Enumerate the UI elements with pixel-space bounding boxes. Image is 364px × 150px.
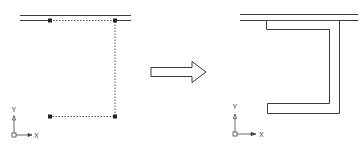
ucs-icon-before [12, 116, 32, 138]
before-panel: Y X [12, 16, 132, 139]
ucs-y-label-after: Y [233, 103, 238, 110]
after-panel: Y X [233, 15, 359, 138]
ucs-x-label-before: X [34, 132, 39, 139]
diagram-canvas: Y X Y X [0, 0, 364, 150]
grip-bottom-left[interactable] [48, 115, 52, 119]
wall-double-line-after [240, 15, 358, 21]
ucs-icon-after [233, 114, 256, 136]
selected-polyline[interactable] [50, 21, 115, 117]
grip-top-right[interactable] [113, 19, 117, 23]
grip-top-left[interactable] [48, 19, 52, 23]
ucs-y-label-before: Y [12, 106, 17, 113]
right-arrow-icon [151, 62, 206, 83]
grip-bottom-right[interactable] [113, 115, 117, 119]
ucs-x-label-after: X [259, 131, 264, 138]
offset-channel-shape[interactable] [267, 21, 340, 114]
grips [48, 19, 117, 119]
